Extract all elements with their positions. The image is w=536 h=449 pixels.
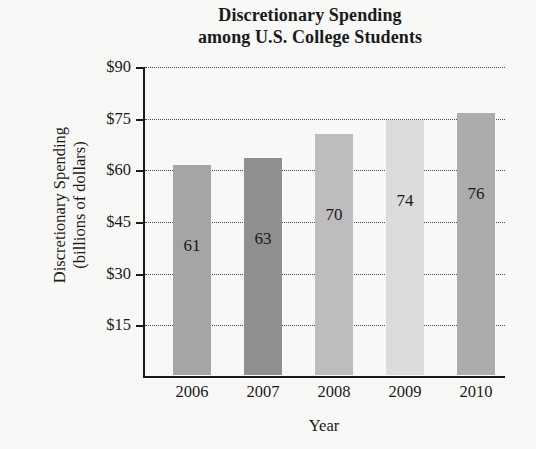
- plot-area: $90 $75 $60 $45 $30 $15 61 63 70 74 76: [143, 67, 505, 377]
- gridline-90: [145, 67, 505, 68]
- x-tick-label-2007: 2007: [228, 383, 298, 400]
- y-axis-title: Discretionary Spending (billions of doll…: [50, 60, 90, 350]
- tick-mark-90: [136, 67, 144, 69]
- bar-value-2009: 74: [375, 192, 435, 209]
- tick-mark-75: [136, 119, 144, 121]
- bar-2008: [315, 134, 353, 375]
- chart-title-line-1: Discretionary Spending: [120, 4, 500, 26]
- chart-title-line-2: among U.S. College Students: [120, 26, 500, 48]
- bar-2010: [457, 113, 495, 375]
- bar-2006: [173, 165, 211, 375]
- chart-title: Discretionary Spending among U.S. Colleg…: [120, 4, 500, 48]
- y-tick-label-30: $30: [71, 266, 131, 283]
- tick-mark-60: [136, 170, 144, 172]
- x-axis-title: Year: [143, 417, 505, 435]
- chart-figure: Discretionary Spending among U.S. Colleg…: [0, 0, 536, 449]
- y-tick-label-75: $75: [71, 111, 131, 128]
- y-tick-label-15: $15: [71, 317, 131, 334]
- x-tick-label-2006: 2006: [157, 383, 227, 400]
- x-tick-label-2010: 2010: [441, 383, 511, 400]
- bar-2009: [386, 120, 424, 375]
- tick-mark-45: [136, 222, 144, 224]
- y-axis-title-line-2: (billions of dollars): [70, 60, 90, 350]
- bar-2007: [244, 158, 282, 375]
- bar-value-2010: 76: [446, 185, 506, 202]
- x-tick-label-2009: 2009: [370, 383, 440, 400]
- x-tick-label-2008: 2008: [299, 383, 369, 400]
- bar-value-2008: 70: [304, 206, 364, 223]
- bar-value-2006: 61: [162, 237, 222, 254]
- y-tick-label-60: $60: [71, 162, 131, 179]
- tick-mark-30: [136, 274, 144, 276]
- bar-value-2007: 63: [233, 230, 293, 247]
- tick-mark-15: [136, 325, 144, 327]
- y-tick-label-45: $45: [71, 214, 131, 231]
- gridline-75: [145, 119, 505, 120]
- x-axis-line: [143, 376, 505, 378]
- y-tick-label-90: $90: [71, 59, 131, 76]
- y-axis-title-line-1: Discretionary Spending: [50, 60, 70, 350]
